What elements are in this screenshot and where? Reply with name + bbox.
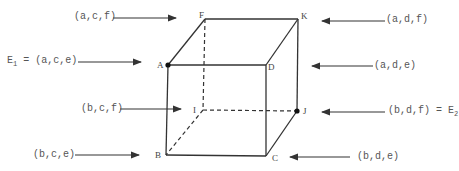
vertex-label-D: D	[268, 63, 275, 72]
tuple-label-I: (b,c,f)	[81, 104, 123, 114]
vertex-A-marker	[165, 62, 170, 67]
tuple-label-D: (a,d,e)	[374, 61, 416, 71]
tuple-label-J: (b,d,f) = E2	[388, 106, 458, 119]
tuple-label-F: (a,c,f)	[74, 12, 116, 22]
tuple-label-A: E1 = (a,c,e)	[7, 56, 77, 69]
solid-edges	[166, 19, 298, 156]
vertex-label-J: J	[303, 107, 307, 116]
vertex-label-A: A	[157, 61, 164, 70]
vertex-label-I: I	[193, 106, 196, 115]
tuple-label-C: (b,d,e)	[357, 152, 399, 162]
cube-diagram	[0, 0, 459, 171]
tuple-label-K: (a,d,f)	[386, 15, 428, 25]
arrows	[75, 18, 385, 157]
vertex-label-C: C	[272, 154, 278, 163]
hidden-edges	[166, 19, 297, 155]
vertex-J-marker	[294, 108, 299, 113]
vertex-label-K: K	[301, 12, 308, 21]
tuple-label-B: (b,c,e)	[33, 150, 75, 160]
vertex-label-B: B	[155, 151, 161, 160]
vertex-label-F: F	[199, 11, 204, 20]
